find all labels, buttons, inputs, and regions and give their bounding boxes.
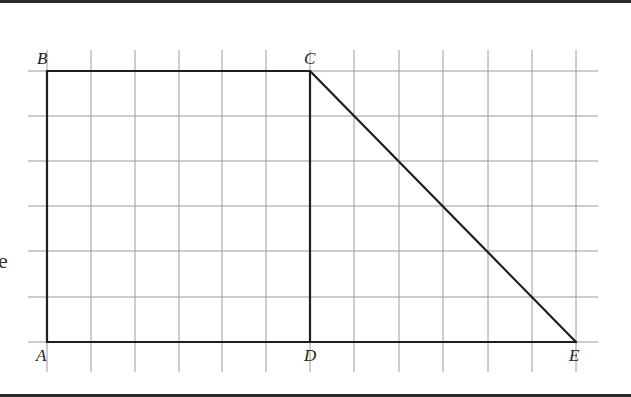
- grid-figure: [0, 0, 631, 397]
- label-b: B: [37, 50, 47, 67]
- label-a: A: [36, 347, 46, 364]
- side-text-fragment: e: [0, 250, 8, 272]
- label-c: C: [304, 50, 315, 67]
- label-e: E: [569, 347, 579, 364]
- label-d: D: [304, 347, 316, 364]
- grid-lines: [28, 50, 598, 372]
